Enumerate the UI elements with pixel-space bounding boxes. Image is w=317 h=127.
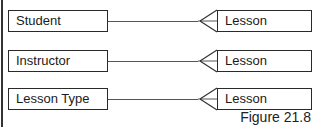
entity-instructor: Instructor bbox=[8, 50, 108, 72]
entity-label: Lesson bbox=[225, 91, 267, 106]
entity-label: Lesson Type bbox=[16, 91, 89, 106]
entity-label: Instructor bbox=[16, 53, 70, 68]
crows-foot-icon bbox=[198, 10, 217, 32]
crows-foot-icon bbox=[198, 50, 217, 72]
entity-lesson: Lesson bbox=[217, 50, 312, 72]
relationship-line bbox=[108, 61, 198, 62]
entity-label: Student bbox=[16, 13, 61, 28]
relationship-line bbox=[108, 99, 198, 100]
crows-foot-icon bbox=[198, 88, 217, 110]
page-border bbox=[1, 0, 3, 127]
entity-lesson: Lesson bbox=[217, 10, 312, 32]
entity-lesson-type: Lesson Type bbox=[8, 88, 108, 110]
figure-caption: Figure 21.8 bbox=[240, 109, 311, 125]
entity-label: Lesson bbox=[225, 53, 267, 68]
entity-student: Student bbox=[8, 10, 108, 32]
entity-lesson: Lesson bbox=[217, 88, 312, 110]
entity-label: Lesson bbox=[225, 13, 267, 28]
relationship-line bbox=[108, 21, 198, 22]
